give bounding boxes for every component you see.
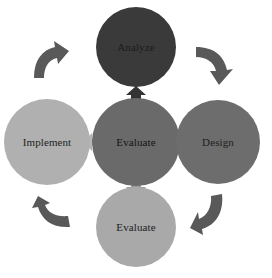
curved-arrow-bottom-right-icon bbox=[190, 194, 222, 235]
node-analyze-label: Analyze bbox=[117, 41, 154, 53]
curved-arrow-bottom-left-icon bbox=[32, 196, 70, 227]
node-design: Design bbox=[176, 100, 260, 184]
node-bottom-evaluate: Evaluate bbox=[96, 187, 176, 267]
curved-arrow-top-left-icon bbox=[34, 41, 69, 78]
curved-arrow-top-right-icon bbox=[196, 47, 233, 85]
node-design-label: Design bbox=[202, 136, 234, 148]
node-implement-label: Implement bbox=[23, 136, 72, 148]
node-center-evaluate-label: Evaluate bbox=[116, 136, 155, 148]
node-center-evaluate: Evaluate bbox=[92, 98, 180, 186]
cycle-diagram: Analyze Implement Evaluate Design Evalua… bbox=[0, 0, 272, 278]
node-analyze: Analyze bbox=[96, 7, 176, 87]
node-bottom-evaluate-label: Evaluate bbox=[116, 221, 155, 233]
node-implement: Implement bbox=[4, 99, 90, 185]
